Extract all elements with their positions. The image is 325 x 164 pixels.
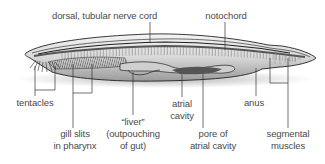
- label-liver-line1: “liver”: [100, 116, 166, 128]
- label-gill-slits-line1: gill slits: [44, 128, 106, 140]
- label-liver-line3: of gut): [100, 140, 166, 152]
- label-atrial-cavity-line1: atrial: [164, 98, 200, 110]
- label-pore-atrial-cavity: pore of atrial cavity: [184, 128, 242, 152]
- label-dorsal-nerve-cord: dorsal, tubular nerve cord: [52, 10, 156, 22]
- label-atrial-cavity: atrial cavity: [164, 98, 200, 122]
- label-pore-line1: pore of: [184, 128, 242, 140]
- label-anus: anus: [238, 97, 270, 109]
- label-segmental-line2: muscles: [260, 140, 316, 152]
- label-segmental-muscles: segmental muscles: [260, 128, 316, 152]
- label-pore-line2: atrial cavity: [184, 140, 242, 152]
- label-liver-line2: (outpouching: [100, 128, 166, 140]
- label-segmental-line1: segmental: [260, 128, 316, 140]
- label-liver: “liver” (outpouching of gut): [100, 116, 166, 152]
- label-atrial-cavity-line2: cavity: [164, 110, 200, 122]
- label-gill-slits-line2: in pharynx: [44, 140, 106, 152]
- label-gill-slits: gill slits in pharynx: [44, 128, 106, 152]
- label-notochord: notochord: [200, 10, 252, 22]
- label-tentacles: tentacles: [12, 97, 58, 109]
